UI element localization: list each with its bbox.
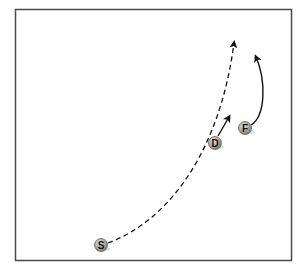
svg-text:S: S	[98, 240, 105, 251]
field-frame	[16, 10, 292, 261]
svg-text:F: F	[242, 123, 248, 134]
svg-text:D: D	[211, 138, 218, 149]
play-diagram: S D F	[0, 0, 304, 267]
